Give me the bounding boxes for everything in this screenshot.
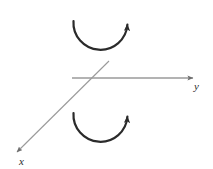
x-axis-label: x <box>18 155 24 167</box>
lower-rotation-arrow <box>73 113 127 142</box>
y-axis: y <box>72 78 199 92</box>
lower-rotation-arc <box>73 113 127 142</box>
x-axis: x <box>17 61 109 167</box>
diagram-svg: y x <box>0 0 213 169</box>
upper-rotation-arrow <box>73 21 127 50</box>
x-axis-line <box>17 61 109 152</box>
y-axis-label: y <box>193 80 199 92</box>
figure-canvas: y x <box>0 0 213 169</box>
upper-rotation-arc <box>73 21 127 50</box>
